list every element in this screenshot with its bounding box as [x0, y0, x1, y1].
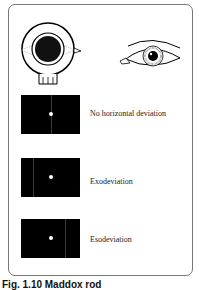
red-line: [33, 158, 34, 197]
maddox-view-exodeviation: [21, 158, 80, 197]
figure-caption: Fig. 1.10 Maddox rod: [2, 279, 101, 290]
row-label: Esodeviation: [90, 235, 132, 244]
light-dot: [49, 236, 53, 240]
row-label: No horizontal deviation: [90, 109, 166, 118]
light-dot: [49, 175, 53, 179]
maddox-view-esodeviation: [21, 219, 80, 258]
maddox-rod-device-icon: [18, 22, 88, 92]
red-line: [65, 219, 66, 258]
light-dot: [49, 112, 53, 116]
eye-icon: [118, 38, 184, 70]
row-label: Exodeviation: [90, 177, 133, 186]
maddox-view-no-deviation: [21, 95, 80, 134]
